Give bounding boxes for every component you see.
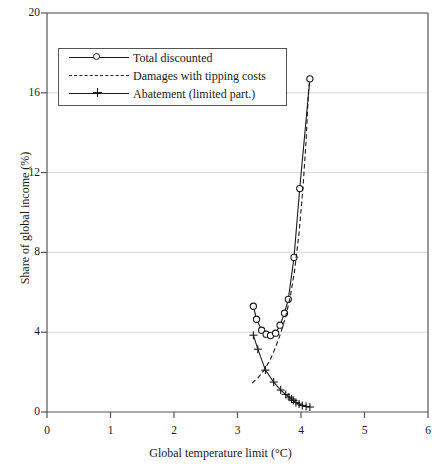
x-tick-label: 4 bbox=[281, 425, 321, 437]
data-point-marker bbox=[273, 330, 279, 336]
legend-label-abatement: Abatement (limited part.) bbox=[133, 88, 255, 100]
x-tick-label: 3 bbox=[218, 425, 258, 437]
series-1 bbox=[252, 79, 310, 383]
data-point-marker bbox=[307, 76, 313, 82]
circle-marker-icon bbox=[93, 53, 100, 60]
data-point-marker bbox=[297, 185, 303, 191]
x-tick-label: 0 bbox=[27, 425, 67, 437]
plus-marker-icon bbox=[93, 88, 102, 97]
data-point-marker bbox=[250, 303, 256, 309]
series-line bbox=[253, 335, 310, 407]
series-line bbox=[253, 79, 310, 336]
solid-line-icon-2 bbox=[65, 85, 133, 103]
y-tick-label: 16 bbox=[8, 87, 40, 99]
solid-line-icon bbox=[65, 49, 133, 67]
legend-item-damages-tipping: Damages with tipping costs bbox=[59, 67, 286, 85]
legend-item-total-discounted: Total discounted bbox=[59, 49, 286, 67]
data-point-marker bbox=[253, 316, 259, 322]
data-point-marker bbox=[285, 296, 291, 302]
legend-label-damages-tipping: Damages with tipping costs bbox=[133, 70, 266, 82]
dashed-line-icon bbox=[65, 67, 133, 85]
y-axis-title: Share of global income (%) bbox=[19, 98, 31, 338]
x-tick-label: 1 bbox=[91, 425, 131, 437]
x-tick-label: 5 bbox=[345, 425, 385, 437]
y-tick-label: 20 bbox=[8, 7, 40, 19]
legend-label-total-discounted: Total discounted bbox=[133, 52, 212, 64]
y-tick-label: 0 bbox=[8, 406, 40, 418]
x-tick-label: 2 bbox=[154, 425, 194, 437]
x-axis-title: Global temperature limit (°C) bbox=[0, 447, 441, 459]
chart-legend: Total discounted Damages with tipping co… bbox=[58, 48, 287, 106]
x-tick-label: 6 bbox=[408, 425, 441, 437]
series-2 bbox=[249, 331, 314, 411]
series-0 bbox=[250, 76, 313, 339]
data-series-group bbox=[249, 76, 314, 411]
legend-item-abatement: Abatement (limited part.) bbox=[59, 85, 286, 103]
series-line bbox=[252, 79, 310, 383]
chart-figure: 048121620 0123456 Global temperature lim… bbox=[0, 0, 441, 469]
